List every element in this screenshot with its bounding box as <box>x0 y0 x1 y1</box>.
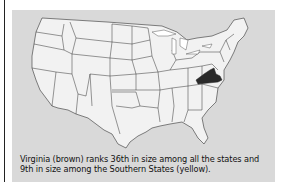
us-map <box>12 10 275 154</box>
caption-line-1: Virginia (brown) ranks 36th in size amon… <box>20 154 280 164</box>
map-caption: Virginia (brown) ranks 36th in size amon… <box>20 154 280 174</box>
caption-line-2: 9th in size among the Southern States (y… <box>20 164 280 174</box>
lake-michigan <box>172 38 176 54</box>
left-rule <box>4 0 5 182</box>
us-outline <box>32 18 248 148</box>
